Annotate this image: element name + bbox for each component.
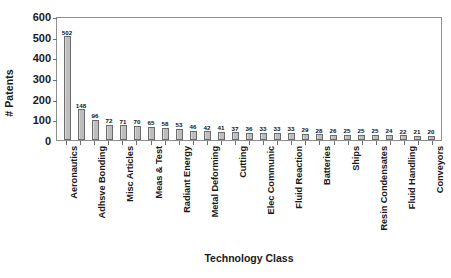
bar-item[interactable]: 33 — [256, 18, 270, 140]
bar-value-label: 33 — [260, 126, 267, 132]
x-label-slot: Meas & Test — [143, 146, 157, 250]
bar-rect[interactable] — [344, 135, 351, 140]
bar-item[interactable]: 46 — [186, 18, 200, 140]
bar-item[interactable]: 71 — [116, 18, 130, 140]
bar-value-label: 41 — [218, 125, 225, 131]
bar-value-label: 42 — [204, 125, 211, 131]
bar-item[interactable]: 24 — [382, 18, 396, 140]
bar-item[interactable]: 36 — [242, 18, 256, 140]
x-tick-mark — [235, 141, 236, 145]
bar-rect[interactable] — [428, 136, 435, 140]
x-tick-mark — [362, 141, 363, 145]
bar-value-label: 96 — [92, 113, 99, 119]
bar-rect[interactable] — [414, 136, 421, 140]
x-category-label: Conveyors — [436, 146, 445, 193]
x-label-slot — [214, 146, 228, 250]
bar-rect[interactable] — [372, 135, 379, 140]
bar-rect[interactable] — [92, 120, 99, 140]
bar-rect[interactable] — [78, 109, 85, 140]
bar-item[interactable]: 37 — [228, 18, 242, 140]
bar-rect[interactable] — [260, 133, 267, 140]
bar-rect[interactable] — [64, 36, 71, 140]
bar-item[interactable]: 502 — [60, 18, 74, 140]
bar-rect[interactable] — [176, 129, 183, 140]
bar-value-label: 58 — [162, 121, 169, 127]
x-axis-title: Technology Class — [56, 252, 442, 264]
patents-by-technology-class-chart: # Patents 0100200300400500600 5021489672… — [0, 0, 451, 278]
bar-item[interactable]: 72 — [102, 18, 116, 140]
bar-item[interactable]: 58 — [158, 18, 172, 140]
bar-value-label: 22 — [400, 129, 407, 135]
bar-value-label: 25 — [358, 128, 365, 134]
bar-item[interactable]: 25 — [340, 18, 354, 140]
bar-rect[interactable] — [218, 132, 225, 140]
bar-rect[interactable] — [120, 125, 127, 140]
x-label-slot — [355, 146, 369, 250]
x-tick-mark — [376, 141, 377, 145]
x-axis-category-labels: AeronauticsAdhsve BondingMisc ArticlesMe… — [56, 146, 442, 250]
bar-rect[interactable] — [106, 125, 113, 140]
bar-value-label: 26 — [330, 128, 337, 134]
bar-rect[interactable] — [288, 133, 295, 140]
bar-item[interactable]: 96 — [88, 18, 102, 140]
x-tick-mark — [108, 141, 109, 145]
bar-rect[interactable] — [148, 127, 155, 140]
bar-rect[interactable] — [330, 135, 337, 140]
bar-rect[interactable] — [232, 132, 239, 140]
x-tick-mark — [221, 141, 222, 145]
bar-item[interactable]: 53 — [172, 18, 186, 140]
y-tick-mark — [53, 18, 57, 19]
bar-rect[interactable] — [302, 134, 309, 140]
bar-rect[interactable] — [400, 135, 407, 140]
y-axis-title: # Patents — [2, 38, 16, 148]
bar-value-label: 20 — [428, 129, 435, 135]
bar-item[interactable]: 41 — [214, 18, 228, 140]
y-tick-label: 600 — [33, 12, 51, 23]
bar-item[interactable]: 33 — [284, 18, 298, 140]
bar-item[interactable]: 21 — [410, 18, 424, 140]
bars-layer: 5021489672717065585346424137363333332928… — [57, 18, 441, 140]
bar-item[interactable]: 20 — [424, 18, 438, 140]
x-label-slot — [73, 146, 87, 250]
x-tick-mark — [305, 141, 306, 145]
bar-item[interactable]: 25 — [368, 18, 382, 140]
y-tick-mark — [53, 121, 57, 122]
x-label-slot: Cutting — [228, 146, 242, 250]
bar-item[interactable]: 28 — [312, 18, 326, 140]
x-tick-mark — [66, 141, 67, 145]
bar-rect[interactable] — [358, 135, 365, 140]
y-tick-label: 500 — [33, 32, 51, 43]
x-tick-mark — [179, 141, 180, 145]
bar-item[interactable]: 33 — [270, 18, 284, 140]
bar-rect[interactable] — [316, 134, 323, 140]
x-label-slot: Metal Deforming — [200, 146, 214, 250]
x-label-slot — [242, 146, 256, 250]
x-label-slot: Misc Articles — [115, 146, 129, 250]
x-tick-mark — [193, 141, 194, 145]
bar-item[interactable]: 29 — [298, 18, 312, 140]
bar-item[interactable]: 148 — [74, 18, 88, 140]
bar-item[interactable]: 42 — [200, 18, 214, 140]
bar-item[interactable]: 26 — [326, 18, 340, 140]
x-label-slot: Batteries — [312, 146, 326, 250]
y-tick-mark — [53, 80, 57, 81]
bar-rect[interactable] — [274, 133, 281, 140]
bar-rect[interactable] — [162, 128, 169, 140]
bar-value-label: 46 — [190, 124, 197, 130]
y-tick-label: 100 — [33, 115, 51, 126]
x-tick-mark — [249, 141, 250, 145]
bar-rect[interactable] — [204, 131, 211, 140]
x-tick-mark — [291, 141, 292, 145]
bar-rect[interactable] — [134, 126, 141, 140]
x-tick-mark — [390, 141, 391, 145]
bar-rect[interactable] — [386, 135, 393, 140]
bar-rect[interactable] — [246, 133, 253, 140]
bar-value-label: 53 — [176, 122, 183, 128]
bar-item[interactable]: 70 — [130, 18, 144, 140]
bar-item[interactable]: 65 — [144, 18, 158, 140]
bar-rect[interactable] — [190, 131, 197, 141]
bar-item[interactable]: 25 — [354, 18, 368, 140]
bar-item[interactable]: 22 — [396, 18, 410, 140]
bar-value-label: 70 — [134, 119, 141, 125]
x-tick-mark — [207, 141, 208, 145]
